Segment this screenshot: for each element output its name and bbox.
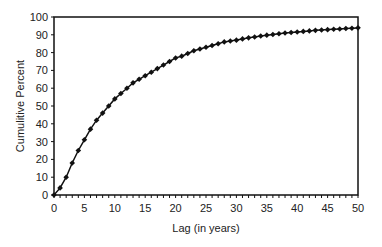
- x-tick-label: 30: [230, 202, 242, 214]
- data-point-marker: [203, 44, 209, 50]
- y-tick-label: 30: [36, 136, 48, 148]
- y-tick-label: 0: [42, 189, 48, 201]
- data-point-marker: [331, 26, 337, 32]
- x-tick-label: 5: [81, 202, 87, 214]
- data-point-marker: [307, 28, 313, 34]
- x-tick-label: 35: [261, 202, 273, 214]
- data-point-marker: [228, 38, 234, 44]
- y-tick-label: 80: [36, 47, 48, 59]
- data-point-marker: [343, 26, 349, 32]
- y-axis-label: Cumulitive Percent: [14, 60, 26, 152]
- data-point-marker: [313, 28, 319, 34]
- y-tick-label: 70: [36, 64, 48, 76]
- cumulative-lag-chart: 0102030405060708090100 05101520253035404…: [0, 0, 382, 247]
- x-tick-label: 40: [291, 202, 303, 214]
- data-point-marker: [288, 30, 294, 36]
- data-point-marker: [240, 36, 246, 42]
- y-tick-label: 90: [36, 29, 48, 41]
- data-point-marker: [215, 41, 221, 47]
- data-point-marker: [63, 174, 69, 180]
- data-point-marker: [319, 27, 325, 33]
- x-tick-label: 10: [109, 202, 121, 214]
- x-axis-label: Lag (in years): [172, 222, 239, 234]
- x-tick-label: 50: [352, 202, 364, 214]
- data-markers: [51, 25, 361, 198]
- data-point-marker: [221, 39, 227, 45]
- y-tick-label: 50: [36, 100, 48, 112]
- x-tick-label: 20: [169, 202, 181, 214]
- data-point-marker: [294, 29, 300, 35]
- data-point-marker: [185, 51, 191, 57]
- plot-area: [54, 17, 358, 195]
- y-axis-ticks: 0102030405060708090100: [30, 11, 54, 201]
- data-point-marker: [270, 32, 276, 38]
- y-tick-label: 10: [36, 171, 48, 183]
- data-point-marker: [69, 160, 75, 166]
- y-tick-label: 20: [36, 153, 48, 165]
- data-point-marker: [300, 29, 306, 35]
- data-point-marker: [191, 48, 197, 54]
- data-point-marker: [276, 31, 282, 37]
- data-line: [54, 28, 358, 195]
- data-point-marker: [209, 43, 215, 49]
- x-axis-ticks: 05101520253035404550: [51, 195, 364, 214]
- data-point-marker: [179, 53, 185, 59]
- data-point-marker: [252, 34, 258, 40]
- data-point-marker: [264, 32, 270, 38]
- data-point-marker: [337, 26, 343, 32]
- x-tick-label: 45: [321, 202, 333, 214]
- x-tick-label: 25: [200, 202, 212, 214]
- x-tick-label: 0: [51, 202, 57, 214]
- data-point-marker: [282, 30, 288, 36]
- data-point-marker: [246, 35, 252, 41]
- x-tick-label: 15: [139, 202, 151, 214]
- y-tick-label: 100: [30, 11, 48, 23]
- data-point-marker: [355, 25, 361, 31]
- data-point-marker: [325, 27, 331, 33]
- data-point-marker: [234, 37, 240, 43]
- data-point-marker: [197, 46, 203, 52]
- data-point-marker: [349, 25, 355, 31]
- y-tick-label: 40: [36, 118, 48, 130]
- data-point-marker: [258, 33, 264, 39]
- y-tick-label: 60: [36, 82, 48, 94]
